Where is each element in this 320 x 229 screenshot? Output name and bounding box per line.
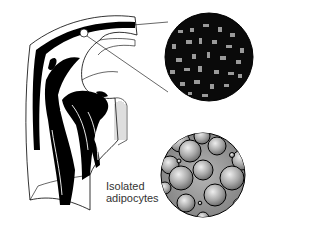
isolated-adipocytes-label: Isolated adipocytes [106, 180, 159, 204]
connector-line-bottom [87, 36, 168, 92]
label-line-2: adipocytes [106, 192, 159, 204]
tissue-section-inset [165, 13, 253, 101]
label-line-1: Isolated [106, 180, 159, 192]
isolated-adipocytes-inset [159, 128, 252, 224]
sample-site-marker [80, 29, 88, 37]
